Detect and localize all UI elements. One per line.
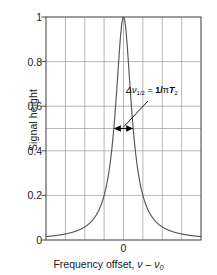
y-tick-label-0.6: 0.6 xyxy=(18,101,42,112)
lorentzian-lineshape-figure: Signal height 1 0.8 0.6 0.4 0.2 0 0 Freq… xyxy=(0,0,217,275)
y-tick-label-0.8: 0.8 xyxy=(18,57,42,68)
x-tick-label-0: 0 xyxy=(121,243,127,254)
y-tick-label-group: 1 0.8 0.6 0.4 0.2 0 xyxy=(18,0,42,275)
x-tick-label-group: 0 xyxy=(46,243,201,257)
y-tick-label-0.2: 0.2 xyxy=(18,190,42,201)
y-tick-label-0.4: 0.4 xyxy=(18,146,42,157)
x-axis-title-subscript: 0 xyxy=(159,263,163,272)
annotation-equals: = xyxy=(145,85,155,95)
annotation-t-subscript: 2 xyxy=(174,90,177,96)
y-tick-marks xyxy=(42,17,47,240)
x-axis-title-symbol: ν – ν xyxy=(137,258,159,270)
halfwidth-annotation: Δν1/2 = 1/πT2 xyxy=(126,86,178,96)
annotation-numerator: 1/ xyxy=(155,85,163,95)
y-tick-label-0: 0 xyxy=(18,235,42,246)
x-axis-title-prefix: Frequency offset, xyxy=(53,258,137,270)
x-axis-title: Frequency offset, ν – ν0 xyxy=(0,258,217,272)
y-tick-label-1: 1 xyxy=(18,12,42,23)
annotation-subscript: 1/2 xyxy=(137,90,145,96)
